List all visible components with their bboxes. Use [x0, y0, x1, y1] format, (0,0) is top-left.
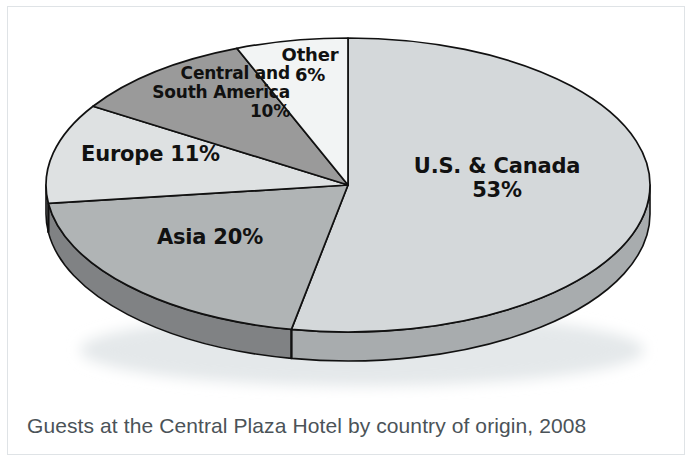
slice-label-other: Other 6%	[262, 45, 358, 85]
slice-label-europe: Europe 11%	[48, 143, 253, 167]
pie-chart-figure: U.S. & Canada 53% Asia 20% Europe 11% Ce…	[0, 0, 692, 461]
slice-label-us-canada: U.S. & Canada 53%	[388, 155, 606, 202]
chart-area: U.S. & Canada 53% Asia 20% Europe 11% Ce…	[0, 0, 692, 400]
slice-label-asia: Asia 20%	[110, 226, 310, 250]
chart-caption: Guests at the Central Plaza Hotel by cou…	[27, 414, 667, 438]
